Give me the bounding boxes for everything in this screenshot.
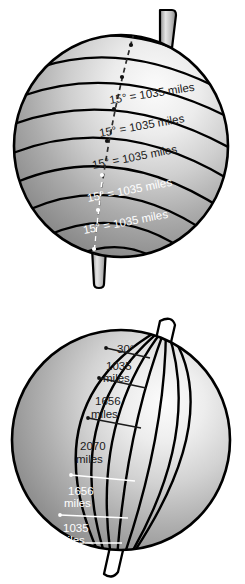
lon-label-3-line1: 2070 [80, 440, 106, 452]
lon-label-1-line1: 1035 [106, 360, 132, 372]
latitude-globe-svg: 15° = 1035 miles 15° = 1035 miles 15° = … [0, 0, 245, 290]
longitude-globe-svg: 30° 1035 miles 1656 miles 2070 miles 165… [0, 285, 245, 584]
lon-angle-label: 30° [117, 343, 134, 355]
lon-label-5-line1: 1035 [63, 522, 89, 534]
lon-label-3-line2: miles [76, 453, 103, 465]
longitude-globe-panel: 30° 1035 miles 1656 miles 2070 miles 165… [0, 285, 245, 584]
lon-label-2-line1: 1656 [95, 395, 121, 407]
latitude-globe-panel: 15° = 1035 miles 15° = 1035 miles 15° = … [0, 0, 245, 290]
globe-diagram-figure: 15° = 1035 miles 15° = 1035 miles 15° = … [0, 0, 245, 584]
lon-label-2-line2: miles [91, 408, 118, 420]
lon-label-4-line2: miles [64, 497, 91, 509]
lon-label-5-line2: miles [58, 534, 85, 546]
lon-label-4-line1: 1656 [68, 485, 94, 497]
lon-label-1-line2: miles [103, 372, 130, 384]
